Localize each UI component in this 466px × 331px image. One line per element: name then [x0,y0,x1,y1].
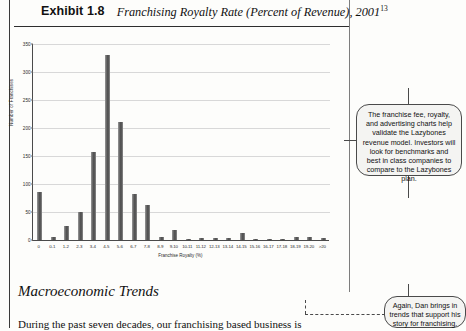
y-axis-tick-label: 200 [23,126,31,131]
bar-slot [87,44,101,240]
chart-bar [91,152,96,240]
x-axis-tick-label: 5-6 [113,244,127,253]
x-axis-tick-label: 0-1 [46,244,60,253]
chart-bar [78,212,83,240]
exhibit-title: Franchising Royalty Rate (Percent of Rev… [117,4,388,20]
chart-bar [294,237,299,240]
chart-bar [64,226,69,240]
x-axis-tick-label: 6-7 [127,244,141,253]
y-axis-tick-label: 350 [23,42,31,47]
bar-slot [47,44,61,240]
x-axis-tick-label: 15-16 [248,244,262,253]
bar-slot [74,44,88,240]
bar-slot [155,44,169,240]
chart-bar [226,238,231,240]
chart-bar [199,238,204,240]
x-axis-tick-label: 12-13 [208,244,222,253]
chart-bar [240,233,245,240]
chart-bar [213,238,218,240]
bar-slot [249,44,263,240]
bar-slot [222,44,236,240]
exhibit-title-text: Franchising Royalty Rate (Percent of Rev… [117,5,381,19]
callout2-leader-horizontal [305,314,385,316]
chart-bar [307,237,312,240]
exhibit-footnote-marker: 13 [380,4,388,13]
y-axis-tick-label: 300 [23,70,31,75]
bar-slot [195,44,209,240]
x-axis-tick-label: 7-8 [140,244,154,253]
x-axis-tick-label: 8-9 [154,244,168,253]
chart-bar [172,230,177,240]
callout-franchise-fee-note: The franchise fee, royalty, and advertis… [356,104,462,176]
chart-bar [267,239,272,240]
chart-bar [159,237,164,240]
x-axis-tick-label: 13-14 [221,244,235,253]
chart-bar [51,237,56,240]
chart-bar [118,122,123,240]
callout-leader-top [408,88,409,105]
y-axis-title: Number of Franchises [9,79,14,126]
x-axis-title: Franchise Royalty (%) [32,253,329,258]
y-axis-tick-label: 50 [25,210,30,215]
x-axis-tick-label: 4-5 [100,244,114,253]
x-axis-tick-label: 9-10 [167,244,181,253]
x-axis-tick-label: 17-18 [275,244,289,253]
x-axis-tick-label: 18-19 [289,244,303,253]
x-axis-tick-label: 11-12 [194,244,208,253]
x-axis-tick-label: 10-11 [181,244,195,253]
bar-slot [60,44,74,240]
franchising-royalty-rate-chart: Number of Franchises 0501001502002503003… [10,30,340,258]
x-axis-tick-labels: 00-11-22-33-44-55-66-77-88-99-1010-1111-… [32,244,329,253]
y-axis-tick-label: 100 [23,182,31,187]
chart-bar [145,205,150,240]
bar-slot [290,44,304,240]
chart-bar [280,239,285,240]
bar-slot [182,44,196,240]
exhibit-number: Exhibit 1.8 [41,4,105,18]
page-right-margin-rule [349,0,350,292]
y-axis-tick-label: 250 [23,98,31,103]
section-heading-macroeconomic-trends: Macroeconomic Trends [18,283,159,300]
bar-slot [263,44,277,240]
section-body-text: During the past seven decades, our franc… [18,318,318,331]
y-axis-tick-label: 150 [23,154,31,159]
x-axis-tick-label: 16-17 [262,244,276,253]
bar-slot [303,44,317,240]
x-axis-tick-label: 1-2 [59,244,73,253]
bar-slot [33,44,47,240]
bar-slot [209,44,223,240]
bar-slot [128,44,142,240]
chart-bar [186,239,191,240]
x-axis-tick-label: 0 [32,244,46,253]
chart-bar [132,194,137,240]
header-divider [14,26,349,27]
x-axis-tick-label: >20 [316,244,330,253]
bar-slot [276,44,290,240]
bar-slot [114,44,128,240]
exhibit-header: Exhibit 1.8 Franchising Royalty Rate (Pe… [14,4,344,26]
bar-slot [101,44,115,240]
x-axis-tick-label: 3-4 [86,244,100,253]
chart-bars [33,44,330,240]
chart-bar [105,55,110,240]
bar-slot [141,44,155,240]
bar-slot [236,44,250,240]
chart-bar [37,192,42,240]
x-axis-tick-label: 2-3 [73,244,87,253]
chart-bar [253,239,258,240]
x-axis-tick-label: 14-15 [235,244,249,253]
callout-macro-trends-note: Again, Dan brings in trends that support… [384,296,466,328]
bar-slot [317,44,331,240]
bar-slot [168,44,182,240]
chart-bar [321,238,326,240]
chart-plot-area: 050100150200250300350 [32,44,329,241]
callout2-leader-vertical [305,300,307,314]
x-axis-tick-label: 19-20 [302,244,316,253]
